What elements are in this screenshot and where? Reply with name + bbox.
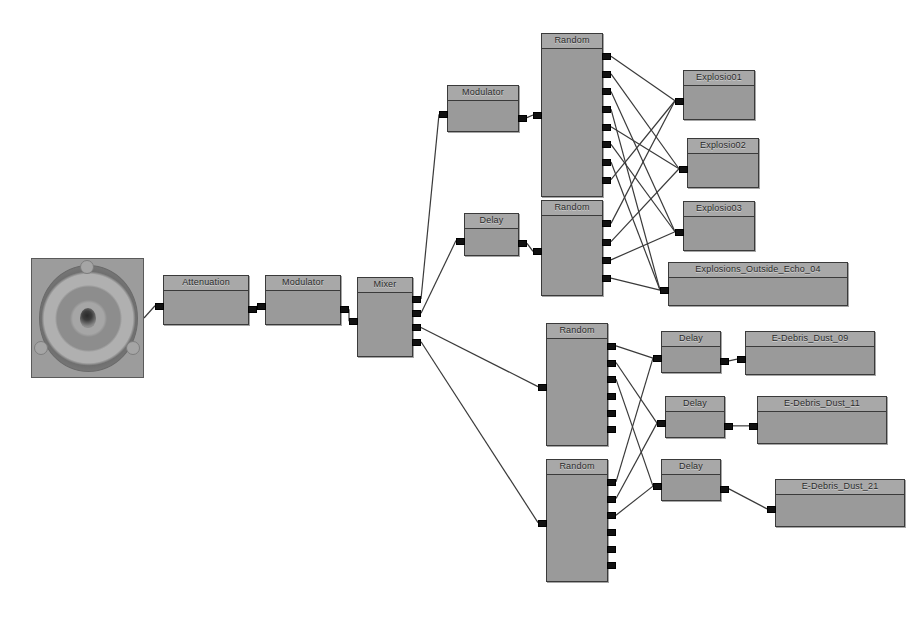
- node-e_debris_dust_09[interactable]: E-Debris_Dust_09: [745, 331, 875, 375]
- node-explosio01[interactable]: Explosio01: [683, 70, 755, 120]
- node-modulator_b[interactable]: Modulator: [447, 85, 519, 132]
- output-port-random_1-2[interactable]: [602, 71, 611, 78]
- output-port-random_1-8[interactable]: [602, 177, 611, 184]
- output-port-random_4-3[interactable]: [607, 512, 616, 519]
- input-port-delay_a[interactable]: [456, 238, 465, 245]
- node-delay_b[interactable]: Delay: [661, 331, 721, 373]
- input-port-explosio03[interactable]: [675, 229, 684, 236]
- input-port-random_2[interactable]: [533, 248, 542, 255]
- input-port-modulator_b[interactable]: [439, 111, 448, 118]
- wire-random_3-out3-to-delay_d[interactable]: [616, 379, 653, 486]
- output-port-random_4-4[interactable]: [607, 529, 616, 536]
- wire-mixer-out3-to-random_3[interactable]: [421, 327, 538, 386]
- node-attenuation[interactable]: Attenuation: [163, 275, 249, 325]
- node-delay_c[interactable]: Delay: [665, 396, 725, 438]
- node-random_2[interactable]: Random: [541, 200, 603, 296]
- wire-random_1-out8-to-explosio01[interactable]: [611, 101, 675, 180]
- input-port-explosio01[interactable]: [675, 98, 684, 105]
- wire-random_3-out1-to-delay_b[interactable]: [616, 346, 653, 358]
- node-delay_d[interactable]: Delay: [661, 459, 721, 501]
- output-port-random_4-6[interactable]: [607, 562, 616, 569]
- input-port-explosions_outside_echo_04[interactable]: [660, 287, 669, 294]
- node-random_4[interactable]: Random: [546, 459, 608, 582]
- node-modulator_a[interactable]: Modulator: [265, 275, 341, 325]
- node-delay_a[interactable]: Delay: [464, 213, 519, 256]
- wire-random_4-out3-to-delay_d[interactable]: [616, 486, 653, 515]
- output-port-delay_c-1[interactable]: [724, 423, 733, 430]
- input-port-e_debris_dust_21[interactable]: [767, 506, 776, 513]
- wire-random_2-out3-to-explosio03[interactable]: [611, 232, 675, 260]
- wire-delay_d-to-e_debris_dust_21[interactable]: [729, 489, 767, 509]
- wire-random_1-out3-to-explosio03[interactable]: [611, 91, 675, 231]
- output-port-random_1-3[interactable]: [602, 88, 611, 95]
- output-port-random_3-2[interactable]: [607, 360, 616, 367]
- wire-random_2-out1-to-explosio01[interactable]: [611, 101, 675, 224]
- input-port-e_debris_dust_11[interactable]: [749, 423, 758, 430]
- output-port-delay_b-1[interactable]: [720, 358, 729, 365]
- output-port-random_3-3[interactable]: [607, 376, 616, 383]
- node-random_1[interactable]: Random: [541, 33, 603, 197]
- wire-speaker-source-to-attenuation[interactable]: [144, 306, 155, 318]
- wire-random_4-out1-to-delay_b[interactable]: [616, 358, 653, 482]
- output-port-mixer-4[interactable]: [412, 339, 421, 346]
- node-e_debris_dust_11[interactable]: E-Debris_Dust_11: [757, 396, 887, 444]
- speaker-source-node[interactable]: [31, 258, 144, 378]
- input-port-delay_d[interactable]: [653, 483, 662, 490]
- wire-random_3-out2-to-delay_c[interactable]: [616, 363, 657, 424]
- output-port-random_1-5[interactable]: [602, 124, 611, 131]
- wire-mixer-out4-to-random_4[interactable]: [421, 342, 538, 523]
- output-port-mixer-1[interactable]: [412, 296, 421, 303]
- input-port-delay_b[interactable]: [653, 355, 662, 362]
- output-port-attenuation-1[interactable]: [248, 306, 257, 313]
- wire-random_1-out5-to-explosio02[interactable]: [611, 127, 679, 169]
- node-e_debris_dust_21[interactable]: E-Debris_Dust_21: [775, 479, 905, 527]
- output-port-random_4-5[interactable]: [607, 546, 616, 553]
- node-explosio03[interactable]: Explosio03: [683, 201, 755, 251]
- input-port-random_1[interactable]: [533, 112, 542, 119]
- output-port-delay_d-1[interactable]: [720, 486, 729, 493]
- input-port-e_debris_dust_09[interactable]: [737, 356, 746, 363]
- wire-mixer-out1-to-modulator_b[interactable]: [421, 114, 439, 299]
- wire-random_2-out4-to-explosions_outside_echo_04[interactable]: [611, 278, 660, 290]
- node-explosions_outside_echo_04[interactable]: Explosions_Outside_Echo_04: [668, 262, 848, 306]
- input-port-explosio02[interactable]: [679, 166, 688, 173]
- input-port-random_3[interactable]: [538, 384, 547, 391]
- output-port-random_2-4[interactable]: [602, 275, 611, 282]
- output-port-random_1-7[interactable]: [602, 159, 611, 166]
- output-port-random_2-3[interactable]: [602, 257, 611, 264]
- output-port-random_1-4[interactable]: [602, 106, 611, 113]
- wire-random_1-out4-to-explosions_outside_echo_04[interactable]: [611, 109, 660, 290]
- input-port-modulator_a[interactable]: [257, 303, 266, 310]
- wire-random_1-out1-to-explosio01[interactable]: [611, 56, 675, 101]
- output-port-random_1-6[interactable]: [602, 141, 611, 148]
- output-port-modulator_a-1[interactable]: [340, 306, 349, 313]
- wire-random_4-out2-to-delay_c[interactable]: [616, 423, 657, 498]
- input-port-mixer[interactable]: [349, 318, 358, 325]
- node-mixer[interactable]: Mixer: [357, 277, 413, 357]
- node-random_3[interactable]: Random: [546, 323, 608, 446]
- input-port-attenuation[interactable]: [155, 303, 164, 310]
- output-port-mixer-3[interactable]: [412, 324, 421, 331]
- wire-random_1-out6-to-explosio03[interactable]: [611, 144, 675, 231]
- output-port-random_3-4[interactable]: [607, 393, 616, 400]
- output-port-random_4-2[interactable]: [607, 496, 616, 503]
- wire-random_2-out2-to-explosio02[interactable]: [611, 169, 679, 242]
- output-port-mixer-2[interactable]: [412, 310, 421, 317]
- input-port-delay_c[interactable]: [657, 420, 666, 427]
- wire-mixer-out2-to-delay_a[interactable]: [421, 241, 456, 314]
- output-port-random_3-5[interactable]: [607, 410, 616, 417]
- wire-random_1-out7-to-explosions_outside_echo_04[interactable]: [611, 162, 660, 290]
- output-port-random_3-1[interactable]: [607, 343, 616, 350]
- output-port-random_3-6[interactable]: [607, 426, 616, 433]
- input-port-random_4[interactable]: [538, 520, 547, 527]
- output-port-modulator_b-1[interactable]: [518, 115, 527, 122]
- output-port-random_2-2[interactable]: [602, 239, 611, 246]
- node-explosio02[interactable]: Explosio02: [687, 138, 759, 188]
- wire-delay_b-to-e_debris_dust_09[interactable]: [729, 359, 737, 361]
- output-port-random_1-1[interactable]: [602, 53, 611, 60]
- output-port-delay_a-1[interactable]: [518, 240, 527, 247]
- wire-random_1-out2-to-explosio02[interactable]: [611, 74, 679, 169]
- audio-node-graph-canvas[interactable]: AttenuationModulatorMixerModulatorDelayR…: [0, 0, 913, 619]
- output-port-random_4-1[interactable]: [607, 479, 616, 486]
- output-port-random_2-1[interactable]: [602, 220, 611, 227]
